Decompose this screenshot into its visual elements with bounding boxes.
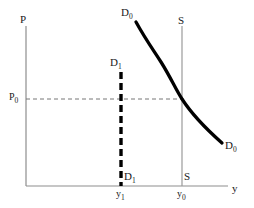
demand-d0-curve [136,22,222,143]
y-axis-label: P [20,14,26,25]
demand-d0-bottom-subscript: 0 [233,145,237,154]
output-y1-subscript: 1 [121,193,125,202]
x-axis-label: y [232,183,238,194]
demand-d0-bottom-label: D0 [225,140,237,154]
price-level-subscript: 0 [15,96,19,105]
supply-bottom-label: S [184,171,190,182]
economics-diagram: P y P0 D0 D0 D1 D1 S S y1 y0 [0,0,254,208]
output-y0-label: y0 [177,189,186,202]
demand-d1-bottom-subscript: 1 [132,176,136,185]
demand-d1-top-base: D [110,56,118,68]
supply-top-label: S [178,15,184,26]
demand-d1-bottom-base: D [124,170,132,182]
output-y0-subscript: 0 [182,193,186,202]
demand-d0-top-base: D [121,6,129,18]
demand-d0-top-subscript: 0 [129,12,133,21]
demand-d0-bottom-base: D [225,139,233,151]
demand-d1-top-label: D1 [110,57,122,71]
price-level-label: P0 [9,92,18,105]
demand-d1-top-subscript: 1 [118,62,122,71]
output-y1-label: y1 [116,189,125,202]
demand-d1-bottom-label: D1 [124,171,136,185]
demand-d0-top-label: D0 [121,7,133,21]
